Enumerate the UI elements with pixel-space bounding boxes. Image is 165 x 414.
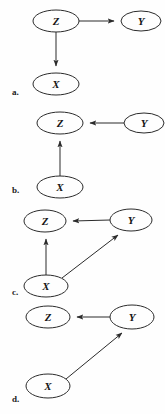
node-c-y: Y [110, 209, 152, 231]
node-c-x: X [24, 275, 68, 297]
node-d-y: Y [110, 305, 154, 329]
node-label-x: X [43, 380, 52, 392]
edge-c-x-to-y [62, 235, 118, 278]
panel-label-a: a. [12, 88, 19, 97]
panel-label-c: c. [12, 288, 18, 297]
node-a-y: Y [121, 11, 161, 31]
node-label-y: Y [128, 214, 136, 226]
panel-label-d: d. [12, 395, 19, 404]
node-b-z: Z [37, 112, 83, 134]
node-c-z: Z [24, 210, 66, 232]
causal-diagram-figure: Z Y X Z Y [0, 0, 165, 414]
node-label-z: Z [44, 311, 52, 323]
node-label-z: Z [41, 215, 49, 227]
node-b-x: X [37, 176, 83, 198]
node-a-x: X [33, 73, 79, 95]
node-label-x: X [55, 181, 64, 193]
edge-d-x-to-y [66, 333, 122, 379]
panel-label-b: b. [12, 186, 19, 195]
node-label-x: X [51, 78, 60, 90]
panel-c: Z Y X [24, 209, 152, 297]
node-a-z: Z [33, 10, 79, 32]
node-label-z: Z [52, 15, 60, 27]
node-label-y: Y [138, 15, 146, 27]
panel-a: Z Y X [33, 10, 161, 95]
edge-c-y-to-z [73, 220, 110, 221]
node-label-y: Y [129, 311, 137, 323]
node-d-x: X [26, 374, 70, 398]
node-b-y: Y [124, 113, 164, 133]
diagram-canvas: Z Y X Z Y [0, 0, 165, 414]
node-label-z: Z [56, 117, 64, 129]
panel-d: Z Y X [26, 305, 154, 398]
node-label-y: Y [141, 117, 149, 129]
node-label-x: X [41, 280, 50, 292]
node-d-z: Z [26, 306, 70, 328]
panel-b: Z Y X [37, 112, 164, 198]
